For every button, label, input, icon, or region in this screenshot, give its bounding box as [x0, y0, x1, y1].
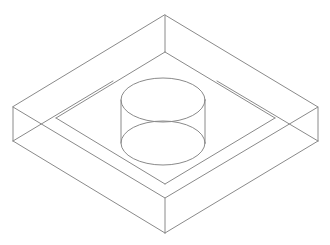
slab-left-construction-edge: [13, 81, 113, 141]
inner-rim-front-right-edge: [165, 118, 275, 184]
slab-bottom-front-right-edge: [165, 141, 318, 233]
isometric-drawing-canvas: [0, 0, 330, 245]
cylinder-top-ellipse: [121, 78, 205, 122]
inner-rim-front-left-edge: [56, 118, 165, 184]
inner-rim-group: [56, 15, 275, 184]
inner-rim-back-left-edge: [56, 52, 165, 118]
center-cylinder-group: [121, 78, 205, 165]
slab-bottom-front-left-edge: [13, 141, 165, 233]
inner-rim-back-right-edge: [165, 52, 275, 118]
wireframe-svg: [0, 0, 330, 245]
slab-right-construction-edge: [217, 81, 318, 141]
cylinder-bottom-ellipse: [121, 121, 205, 165]
